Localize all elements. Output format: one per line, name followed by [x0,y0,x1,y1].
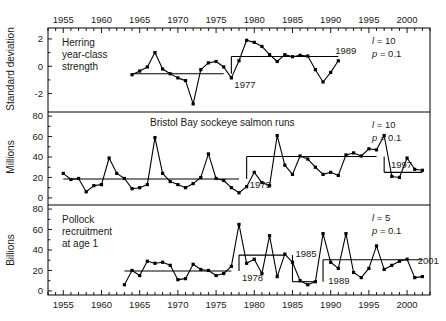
stat-p: p = 0.1 [371,132,401,143]
data-point-marker [306,54,309,57]
data-point-marker [62,172,65,175]
stat-p: p = 0.1 [371,48,401,59]
data-point-marker [199,176,202,179]
data-point-marker [161,172,164,175]
shift-year-annotation: 1989 [335,45,356,56]
data-point-marker [344,153,347,156]
shift-year-annotation: 1985 [295,248,316,259]
data-point-marker [230,186,233,189]
x-axis-top-tick-label: 1970 [167,14,188,25]
data-point-marker [207,61,210,64]
data-point-marker [222,65,225,68]
data-point-marker [398,260,401,263]
data-point-marker [291,173,294,176]
data-point-marker [367,147,370,150]
y-axis-tick-label: 0 [38,192,43,203]
data-point-marker [352,271,355,274]
data-point-marker [291,261,294,264]
data-point-marker [321,173,324,176]
x-axis-top-tick-label: 1955 [53,14,74,25]
data-point-marker [153,136,156,139]
x-axis-bottom-tick-label: 1965 [129,299,150,310]
data-point-marker [230,76,233,79]
data-point-marker [153,262,156,265]
stat-l: l = 10 [372,119,396,130]
data-point-marker [184,277,187,280]
data-point-marker [321,80,324,83]
shift-year-annotation: 1989 [328,275,349,286]
series-label: recruitment [62,226,112,237]
data-point-marker [283,164,286,167]
data-point-marker [214,274,217,277]
data-point-marker [130,187,133,190]
data-point-marker [276,275,279,278]
data-point-marker [237,59,240,62]
data-point-marker [253,258,256,261]
data-point-marker [383,268,386,271]
data-point-marker [214,177,217,180]
data-point-marker [222,272,225,275]
data-point-marker [169,72,172,75]
data-point-marker [283,53,286,56]
data-point-marker [367,267,370,270]
data-point-marker [329,171,332,174]
stat-l: l = 5 [372,212,390,223]
x-axis-bottom-tick-label: 1975 [206,299,227,310]
series-label: Herring [62,37,95,48]
data-point-marker [184,79,187,82]
x-axis-bottom-tick-label: 1985 [282,299,303,310]
data-point-marker [291,55,294,58]
shift-year-annotation: 2001 [418,255,439,266]
series-label: year-class [62,49,108,60]
y-axis-tick-label: 40 [32,151,43,162]
y-axis-label: Millions [5,140,16,173]
y-axis-tick-label: 80 [32,203,43,214]
data-point-marker [276,134,279,137]
x-axis-top-tick-label: 1995 [358,14,379,25]
data-point-marker [245,185,248,188]
panel-2: 020406080MillionsBristol Bay sockeye sal… [5,110,430,203]
x-axis-top-tick-label: 1960 [91,14,112,25]
data-point-marker [390,175,393,178]
data-point-marker [192,182,195,185]
data-point-marker [306,283,309,286]
data-point-marker [299,154,302,157]
y-axis-label: Billions [5,234,16,266]
data-point-marker [314,166,317,169]
data-point-marker [375,244,378,247]
data-point-marker [253,41,256,44]
data-point-marker [276,60,279,63]
data-point-marker [207,152,210,155]
data-point-marker [375,148,378,151]
data-point-marker [253,171,256,174]
data-point-marker [245,39,248,42]
data-point-marker [237,191,240,194]
data-point-marker [192,263,195,266]
data-point-marker [192,102,195,105]
data-point-marker [306,157,309,160]
data-point-marker [123,177,126,180]
data-point-marker [230,265,233,268]
data-point-marker [268,53,271,56]
data-point-marker [390,264,393,267]
data-point-marker [207,269,210,272]
x-axis-bottom-tick-label: 1955 [53,299,74,310]
x-axis-bottom-tick-label: 1980 [244,299,265,310]
data-point-marker [100,183,103,186]
y-axis-tick-label: 2 [38,33,43,44]
data-point-marker [161,67,164,70]
shift-year-annotation: 1977 [234,79,255,90]
data-point-marker [169,180,172,183]
data-point-marker [352,151,355,154]
data-point-marker [314,68,317,71]
data-point-marker [199,268,202,271]
data-series-line [132,40,338,104]
series-label: strength [62,61,98,72]
y-axis-tick-label: 20 [32,172,43,183]
data-point-marker [237,223,240,226]
y-axis-tick-label: 80 [32,110,43,121]
x-axis-top-tick-label: 1980 [244,14,265,25]
data-point-marker [260,45,263,48]
y-axis-tick-label: 0 [38,285,43,296]
data-point-marker [314,280,317,283]
